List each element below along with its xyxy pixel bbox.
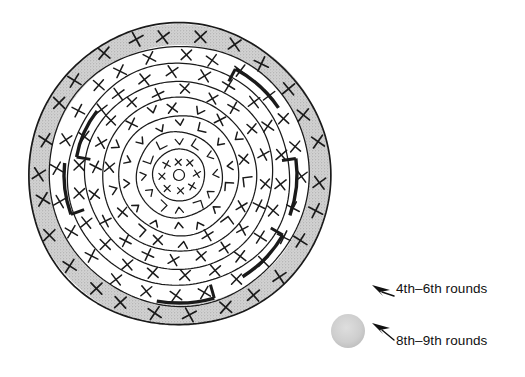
concentric-ring-diagram	[0, 0, 525, 377]
legend-label-8th-9th-rounds: 8th–9th rounds	[396, 333, 487, 348]
legend-label-4th-6th-rounds: 4th–6th rounds	[396, 281, 487, 296]
legend-grey-circle-swatch	[331, 314, 365, 348]
figure-canvas: 4th–6th rounds 8th–9th rounds	[0, 0, 525, 377]
legend-arrow-1	[372, 285, 394, 296]
legend-arrow-2	[372, 323, 394, 340]
